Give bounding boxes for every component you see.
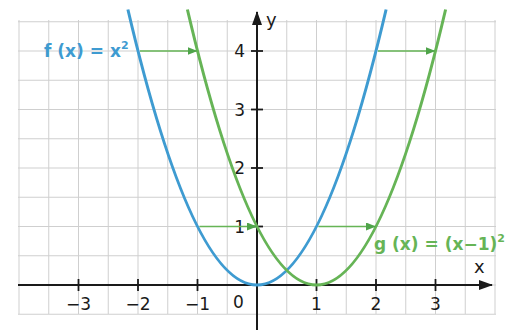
x-tick-label: −2	[125, 294, 150, 314]
y-tick-label: 4	[234, 41, 245, 61]
x-tick-label: 2	[371, 294, 382, 314]
y-axis-label: y	[266, 9, 277, 30]
x-axis-label: x	[474, 256, 485, 277]
function-graph: −3−2−11231234 x y 0 f (x) = x2 g (x) = (…	[0, 0, 510, 334]
f-function-label: f (x) = x2	[44, 39, 129, 61]
origin-label: 0	[233, 292, 244, 312]
x-tick-label: 1	[311, 294, 322, 314]
g-function-label: g (x) = (x−1)2	[374, 232, 505, 254]
x-tick-label: −1	[185, 294, 210, 314]
axis-ticks: −3−2−11231234	[66, 41, 441, 314]
x-tick-label: 3	[430, 294, 441, 314]
x-tick-label: −3	[66, 294, 91, 314]
y-tick-label: 3	[234, 100, 245, 120]
